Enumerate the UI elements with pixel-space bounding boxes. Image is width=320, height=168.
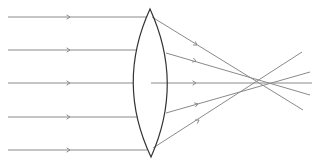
arrow-icon <box>192 58 196 62</box>
refracted-ray <box>152 17 303 110</box>
lens-ray-diagram <box>0 0 320 168</box>
refracted-ray <box>166 72 310 113</box>
refracted-ray <box>153 52 302 148</box>
refracted-ray <box>166 53 310 95</box>
